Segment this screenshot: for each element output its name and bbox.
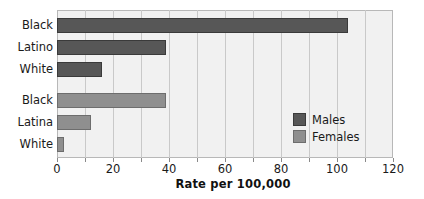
category-label: Black <box>0 19 53 31</box>
category-label: White <box>0 138 53 150</box>
x-tick <box>85 158 86 162</box>
legend-label-males: Males <box>312 113 345 127</box>
x-axis-title-text: Rate per 100,000 <box>175 177 290 191</box>
x-tick <box>253 158 254 162</box>
legend-swatch-males-icon <box>293 113 306 126</box>
legend-item-males: Males <box>293 111 360 128</box>
bar <box>57 115 91 130</box>
bar <box>57 40 166 55</box>
bar-chart: BlackLatinoWhiteBlackLatinaWhite 0204060… <box>0 0 424 199</box>
x-tick-label: 120 <box>382 162 404 176</box>
x-tick <box>141 158 142 162</box>
gridline <box>365 10 366 158</box>
bar <box>57 18 348 33</box>
legend-label-females: Females <box>312 130 360 144</box>
bar <box>57 62 102 77</box>
category-label: Latina <box>0 116 53 128</box>
x-axis-title: Rate per 100,000 <box>0 177 424 191</box>
x-tick-label: 0 <box>53 162 60 176</box>
category-label: White <box>0 63 53 75</box>
bar <box>57 93 166 108</box>
legend-swatch-females-icon <box>293 130 306 143</box>
bar <box>57 137 64 152</box>
x-tick <box>365 158 366 162</box>
category-label: Black <box>0 94 53 106</box>
x-tick-label: 20 <box>106 162 121 176</box>
x-tick-label: 80 <box>274 162 289 176</box>
x-tick <box>309 158 310 162</box>
category-label: Latino <box>0 41 53 53</box>
x-tick-label: 40 <box>162 162 177 176</box>
x-tick-label: 100 <box>326 162 348 176</box>
legend: Males Females <box>293 111 360 145</box>
x-tick-label: 60 <box>218 162 233 176</box>
legend-item-females: Females <box>293 128 360 145</box>
x-tick <box>197 158 198 162</box>
